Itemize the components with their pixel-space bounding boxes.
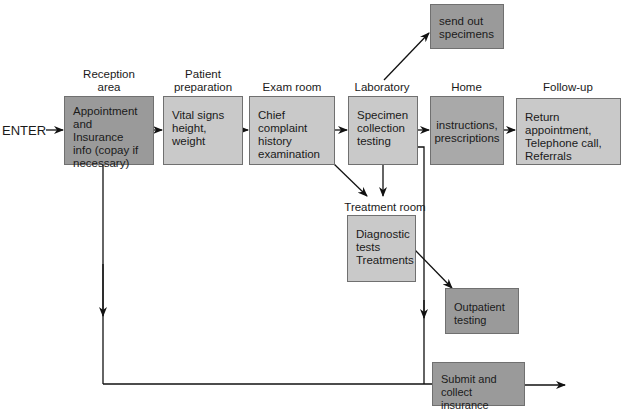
submit-insurance-text: Submit and collect insurance xyxy=(441,373,516,412)
exam-room-box: Chief complaint history examination xyxy=(249,96,335,165)
reception-box-text: Appointment and Insurance info (copay if… xyxy=(73,105,145,170)
send-out-specimens-box: send out specimens xyxy=(430,4,504,49)
reception-area-header: Reception area xyxy=(64,68,154,94)
connector-lines xyxy=(0,0,627,415)
exam-room-header: Exam room xyxy=(249,81,335,94)
follow-up-header: Follow-up xyxy=(516,81,620,94)
laboratory-box: Specimen collection testing xyxy=(348,96,418,165)
send-out-specimens-text: send out specimens xyxy=(439,15,495,41)
treatment-room-box-text: Diagnostic tests Treatments xyxy=(356,228,407,267)
exam-room-box-text: Chief complaint history examination xyxy=(258,109,326,161)
patient-preparation-box-text: Vital signs height, weight xyxy=(172,109,234,148)
follow-up-box: Return appointment, Telephone call, Refe… xyxy=(516,98,621,165)
follow-up-box-text: Return appointment, Telephone call, Refe… xyxy=(525,111,612,163)
laboratory-header: Laboratory xyxy=(346,81,418,94)
outpatient-testing-text: Outpatient testing xyxy=(454,301,510,327)
laboratory-box-text: Specimen collection testing xyxy=(357,109,409,148)
submit-insurance-box: Submit and collect insurance xyxy=(432,362,525,406)
outpatient-testing-box: Outpatient testing xyxy=(445,288,519,334)
treatment-room-box: Diagnostic tests Treatments xyxy=(347,215,416,282)
home-header: Home xyxy=(430,81,503,94)
reception-box: Appointment and Insurance info (copay if… xyxy=(64,96,154,165)
patient-preparation-box: Vital signs height, weight xyxy=(163,96,243,165)
treatment-room-header: Treatment room xyxy=(335,201,435,214)
patient-preparation-header: Patient preparation xyxy=(160,68,246,94)
home-box-text: instructions, prescriptions xyxy=(433,119,501,145)
enter-label: ENTER xyxy=(2,123,46,138)
home-box: instructions, prescriptions xyxy=(430,96,504,165)
